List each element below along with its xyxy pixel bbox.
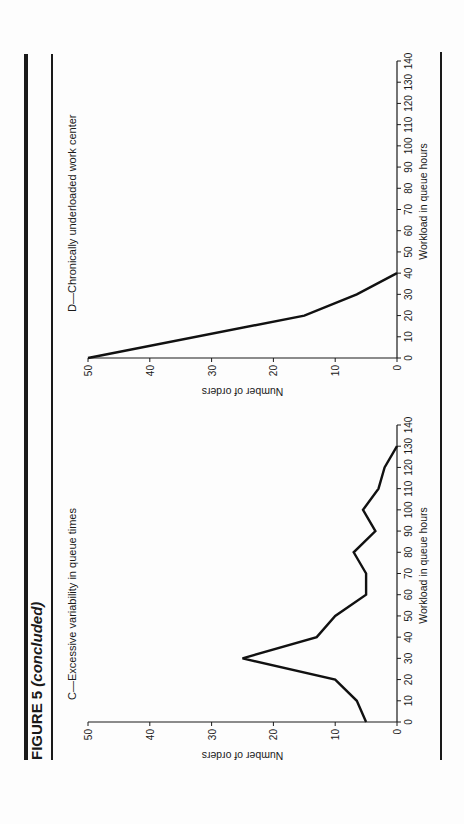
- y-tick-label: 50: [83, 365, 94, 377]
- x-tick-label: 20: [403, 674, 414, 686]
- x-tick-label: 80: [403, 182, 414, 194]
- x-tick-label: 80: [403, 546, 414, 558]
- y-tick-label: 10: [330, 365, 341, 377]
- y-tick-label: 20: [268, 365, 279, 377]
- x-tick-label: 120: [403, 459, 414, 476]
- x-tick-label: 90: [403, 525, 414, 537]
- panel-d-y-label: Number of orders: [202, 386, 284, 398]
- x-tick-label: 0: [403, 719, 414, 725]
- x-tick-label: 60: [403, 589, 414, 601]
- x-tick-label: 110: [403, 480, 414, 496]
- y-tick-label: 40: [145, 365, 156, 377]
- x-tick-label: 30: [403, 652, 414, 664]
- x-tick-label: 0: [403, 355, 414, 361]
- x-tick-label: 40: [403, 631, 414, 643]
- panel-c-chart: 0102030405060708090100110120130140010203…: [83, 416, 429, 762]
- figure-page: FIGURE 5 (concluded) C—Excessive variabi…: [0, 0, 464, 824]
- x-tick-label: 90: [403, 161, 414, 173]
- panel-d-chart: 0102030405060708090100110120130140010203…: [83, 52, 429, 398]
- panel-d-x-label: Workload in queue hours: [417, 143, 429, 260]
- x-tick-label: 140: [403, 52, 414, 69]
- x-tick-label: 20: [403, 310, 414, 322]
- x-tick-label: 40: [403, 267, 414, 279]
- x-tick-label: 10: [403, 331, 414, 343]
- x-tick-label: 70: [403, 568, 414, 580]
- panel-c-y-label: Number of orders: [202, 750, 284, 762]
- x-tick-label: 10: [403, 695, 414, 707]
- y-tick-label: 0: [392, 365, 403, 371]
- x-tick-label: 60: [403, 225, 414, 237]
- x-tick-label: 130: [403, 73, 414, 90]
- charts-canvas: 0102030405060708090100110120130140010203…: [0, 0, 464, 824]
- panel-d-data-line: [88, 273, 397, 358]
- panel-c-x-label: Workload in queue hours: [417, 507, 429, 624]
- panel-c-data-line: [243, 446, 398, 722]
- y-tick-label: 30: [207, 729, 218, 741]
- y-tick-label: 40: [145, 729, 156, 741]
- x-tick-label: 140: [403, 416, 414, 433]
- y-tick-label: 50: [83, 729, 94, 741]
- x-tick-label: 50: [403, 246, 414, 258]
- y-tick-label: 20: [268, 729, 279, 741]
- x-tick-label: 50: [403, 610, 414, 622]
- x-tick-label: 110: [403, 116, 414, 132]
- x-tick-label: 120: [403, 95, 414, 112]
- x-tick-label: 100: [403, 501, 414, 518]
- y-tick-label: 0: [392, 729, 403, 735]
- x-tick-label: 130: [403, 437, 414, 454]
- y-tick-label: 30: [207, 365, 218, 377]
- y-tick-label: 10: [330, 729, 341, 741]
- x-tick-label: 70: [403, 204, 414, 216]
- x-tick-label: 30: [403, 288, 414, 300]
- x-tick-label: 100: [403, 137, 414, 154]
